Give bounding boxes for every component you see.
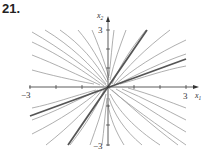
y-max-label: 3 [98,25,103,35]
y-min-label: −3 [93,141,103,151]
x-axis-arrow-icon [193,85,199,89]
x-axis-label: x1 [194,91,202,101]
y-axis-arrow-icon [106,16,110,22]
x-max-label: 3 [183,91,188,101]
x-min-label: −3 [21,90,31,100]
y-axis-label: x2 [96,11,104,21]
phase-portrait: −3 3 3 −3 x1 x2 [0,0,215,157]
